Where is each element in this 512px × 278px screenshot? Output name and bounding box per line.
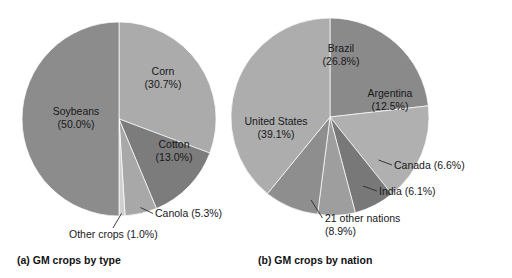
pie-label-soybeans-percent: (50.0%) [58,118,95,130]
pie-callout-canola: Canola (5.3%) [155,207,222,219]
pie-label-brazil-name: Brazil [328,42,354,54]
caption-gm-crops-by-type: (a) GM crops by type [17,254,121,266]
pie-label-corn-name: Corn [152,65,175,77]
pie-label-argentina-name: Argentina [368,87,413,99]
caption-gm-crops-by-nation: (b) GM crops by nation [258,254,372,266]
pie-callout-india: India (6.1%) [379,185,436,197]
pie-label-argentina-percent: (12.5%) [372,100,409,112]
pie-chart-gm-crops-by-nation: Brazil (26.8%) Argentina (12.5%) United … [231,18,465,266]
pie-label-cotton-name: Cotton [159,138,190,150]
pie-callout-21-other-nations-name: 21 other nations [325,212,400,224]
pie-charts-svg: Corn (30.7%) Cotton (13.0%) Soybeans (50… [0,0,512,278]
pie-callout-21-other-nations-percent: (8.9%) [325,225,356,237]
pie-label-soybeans-name: Soybeans [53,105,100,117]
pie-label-corn-percent: (30.7%) [145,78,182,90]
pie-callout-other-crops: Other crops (1.0%) [69,228,158,240]
pie-callout-canada: Canada (6.6%) [394,159,465,171]
pie-label-brazil-percent: (26.8%) [323,55,360,67]
pie-chart-gm-crops-by-type: Corn (30.7%) Cotton (13.0%) Soybeans (50… [17,22,222,266]
pie-label-cotton-percent: (13.0%) [156,151,193,163]
figure-container: Corn (30.7%) Cotton (13.0%) Soybeans (50… [0,0,512,278]
pie-label-united-states-name: United States [244,115,307,127]
pie-label-united-states-percent: (39.1%) [258,128,295,140]
